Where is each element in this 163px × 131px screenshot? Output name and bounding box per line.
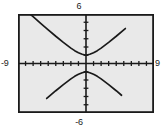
plot-area (18, 14, 154, 113)
graphing-calculator-screen: 6 -9 9 -6 (0, 0, 163, 131)
x-min-label: -9 (1, 59, 9, 68)
y-min-label: -6 (75, 118, 83, 127)
x-max-label: 9 (155, 59, 160, 68)
graph-svg (18, 14, 154, 113)
y-max-label: 6 (77, 2, 82, 11)
